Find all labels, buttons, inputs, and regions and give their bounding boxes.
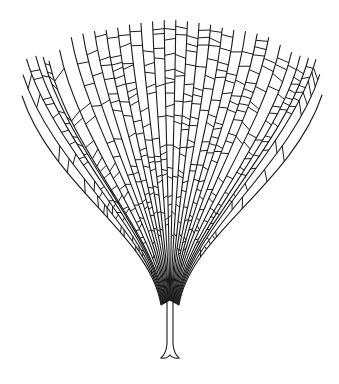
cross-wall — [204, 220, 208, 222]
cross-wall — [153, 186, 158, 187]
cross-wall — [99, 192, 102, 198]
cross-wall — [179, 234, 181, 237]
cross-wall — [92, 73, 102, 77]
cross-wall — [237, 172, 241, 174]
cross-wall — [129, 93, 138, 98]
cross-wall — [244, 89, 254, 93]
cross-wall — [255, 87, 266, 93]
cross-wall — [273, 106, 281, 107]
cross-wall — [162, 169, 168, 171]
cross-wall — [276, 65, 287, 70]
cross-wall — [87, 50, 98, 55]
cross-wall — [84, 179, 85, 194]
cross-wall — [165, 69, 175, 71]
cross-wall — [207, 238, 209, 240]
cross-wall — [147, 92, 156, 94]
cross-wall — [100, 57, 110, 61]
cross-wall — [210, 223, 214, 224]
cross-wall — [173, 146, 180, 150]
cross-wall — [302, 77, 310, 79]
cross-wall — [227, 73, 237, 75]
cross-wall — [141, 180, 146, 182]
cross-wall — [107, 202, 109, 208]
cross-wall — [196, 218, 199, 221]
cross-wall — [119, 35, 131, 36]
cross-wall — [167, 167, 173, 168]
cross-wall — [123, 218, 125, 221]
cross-wall — [293, 98, 299, 101]
cross-wall — [104, 173, 110, 178]
cross-wall — [150, 169, 155, 172]
cross-wall — [149, 230, 152, 232]
cross-wall — [28, 74, 32, 88]
cross-wall — [217, 213, 220, 214]
cross-wall — [249, 152, 254, 156]
cross-wall — [92, 149, 98, 159]
cross-wall — [218, 62, 229, 65]
cross-wall — [46, 103, 55, 104]
cross-wall — [226, 176, 232, 179]
holdfast-stem — [161, 300, 179, 358]
cross-wall — [55, 68, 65, 81]
cross-wall — [150, 192, 154, 195]
cross-wall — [192, 230, 194, 233]
cross-wall — [120, 43, 131, 47]
cross-wall — [209, 198, 213, 202]
cross-wall — [168, 195, 172, 197]
cross-wall — [228, 133, 236, 136]
cross-wall — [129, 133, 136, 137]
cross-wall — [234, 194, 236, 197]
cross-wall — [176, 34, 187, 35]
cross-wall — [240, 167, 244, 170]
cross-wall — [86, 141, 94, 148]
cross-wall — [173, 176, 178, 177]
cross-wall — [145, 206, 148, 209]
cross-wall — [104, 78, 114, 80]
cross-wall — [280, 109, 287, 110]
cross-wall — [207, 59, 218, 61]
cross-wall — [210, 31, 222, 33]
cross-wall — [283, 102, 290, 105]
cross-wall — [107, 207, 108, 217]
cross-wall — [197, 189, 201, 191]
cross-wall — [153, 256, 154, 259]
cross-wall — [262, 66, 273, 72]
cross-wall — [266, 121, 272, 126]
cross-wall — [219, 107, 228, 108]
cross-wall — [277, 58, 288, 63]
cross-wall — [253, 55, 265, 56]
cross-wall — [273, 123, 278, 127]
cross-wall — [200, 110, 209, 111]
cross-wall — [178, 175, 183, 178]
cross-wall — [211, 137, 218, 139]
cross-wall — [211, 100, 220, 101]
cross-wall — [198, 37, 209, 38]
cross-wall — [126, 208, 129, 213]
cross-wall — [111, 186, 117, 190]
cross-wall — [197, 225, 199, 229]
cross-wall — [236, 136, 243, 144]
cross-wall — [229, 200, 232, 201]
cross-wall — [248, 107, 257, 113]
cross-wall — [182, 181, 187, 183]
cross-wall — [191, 164, 197, 165]
cross-wall — [236, 80, 245, 85]
cross-wall — [84, 154, 88, 155]
cross-wall — [131, 208, 136, 211]
cross-wall — [120, 102, 130, 103]
cross-wall — [178, 170, 183, 174]
cross-wall — [136, 230, 140, 231]
cross-wall — [217, 70, 227, 72]
filament-group — [22, 21, 322, 305]
cross-wall — [282, 146, 284, 161]
cross-wall — [143, 166, 149, 167]
cross-wall — [113, 172, 119, 179]
cross-wall — [53, 113, 59, 118]
cross-wall — [186, 50, 197, 52]
cross-wall — [209, 240, 211, 244]
cross-wall — [239, 104, 249, 106]
cross-wall — [285, 97, 292, 99]
cross-wall — [161, 152, 167, 155]
cross-wall — [216, 145, 222, 149]
cross-wall — [242, 174, 247, 175]
